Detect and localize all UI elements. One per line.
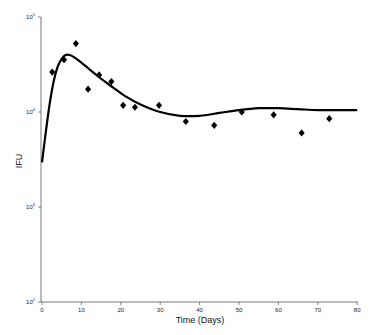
x-tick-label: 30 bbox=[157, 307, 164, 313]
data-points bbox=[49, 40, 332, 137]
chart: 105104103102 01020304050607080 Time (Day… bbox=[0, 0, 372, 335]
data-point-diamond bbox=[326, 115, 332, 122]
y-axis: 105104103102 bbox=[26, 12, 41, 305]
x-tick-label: 80 bbox=[354, 307, 361, 313]
x-axis-title: Time (Days) bbox=[176, 315, 225, 325]
y-tick-label: 104 bbox=[26, 107, 36, 115]
data-point-diamond bbox=[299, 129, 305, 136]
data-point-diamond bbox=[96, 71, 102, 78]
x-tick-label: 50 bbox=[236, 307, 243, 313]
y-tick-label: 103 bbox=[26, 202, 36, 210]
data-point-diamond bbox=[156, 102, 162, 109]
x-tick-label: 70 bbox=[314, 307, 321, 313]
x-tick-label: 60 bbox=[275, 307, 282, 313]
data-point-diamond bbox=[211, 122, 217, 129]
data-point-diamond bbox=[132, 104, 138, 111]
y-tick-label: 105 bbox=[26, 12, 36, 20]
data-point-diamond bbox=[85, 86, 91, 93]
x-tick-label: 20 bbox=[117, 307, 124, 313]
x-tick-label: 10 bbox=[78, 307, 85, 313]
x-tick-label: 0 bbox=[40, 307, 44, 313]
data-point-diamond bbox=[271, 111, 277, 118]
data-point-diamond bbox=[183, 118, 189, 125]
y-tick-label: 102 bbox=[26, 297, 36, 305]
x-tick-label: 40 bbox=[196, 307, 203, 313]
y-axis-title: IFU bbox=[14, 154, 24, 169]
model-curve bbox=[42, 55, 357, 163]
x-axis: 01020304050607080 bbox=[40, 302, 361, 313]
data-point-diamond bbox=[73, 40, 79, 47]
data-point-diamond bbox=[120, 102, 126, 109]
